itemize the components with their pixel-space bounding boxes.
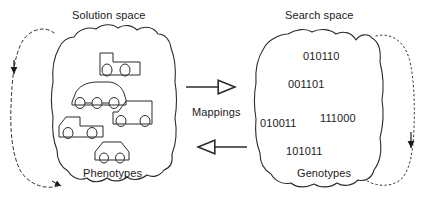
solution-space-title: Solution space: [72, 9, 146, 21]
genotype-string-2: 001101: [288, 78, 325, 90]
genotype-string-5: 101011: [286, 145, 323, 157]
search-space-title: Search space: [285, 9, 353, 21]
genotype-string-3: 010011: [260, 117, 297, 129]
genotypes-label: Genotypes: [297, 167, 351, 179]
genotype-string-1: 010110: [303, 50, 340, 62]
diagram-root: Solution space Search space Mappings 010…: [0, 0, 426, 213]
mappings-label: Mappings: [192, 106, 241, 118]
genotype-string-4: 111000: [320, 112, 356, 124]
solution-space-blob: [52, 25, 177, 182]
phenotypes-label: Phenotypes: [83, 167, 142, 179]
